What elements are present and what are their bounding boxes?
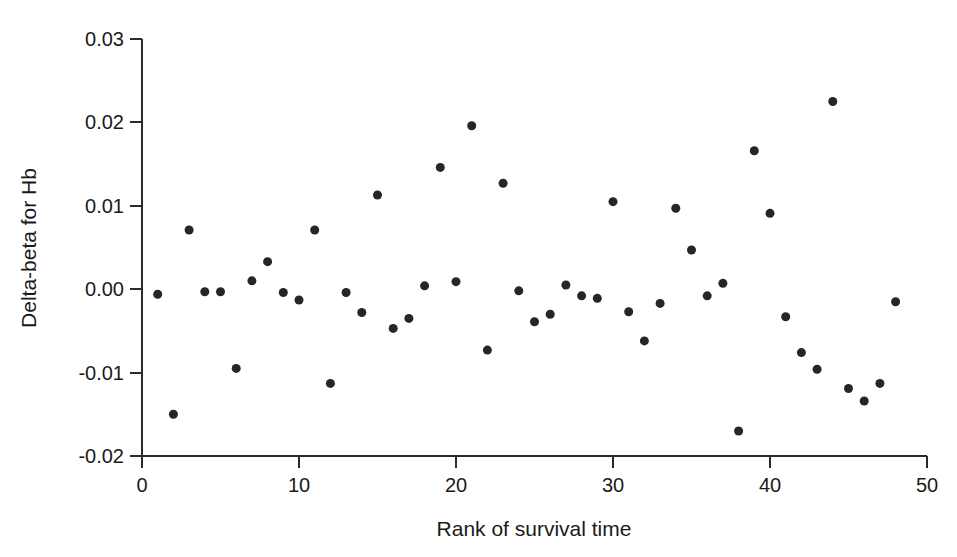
data-point (593, 294, 602, 303)
data-point (844, 384, 853, 393)
y-tick-label: 0.01 (85, 195, 124, 217)
data-point (687, 246, 696, 255)
y-tick-label: 0.00 (85, 278, 124, 300)
y-tick-label: -0.02 (78, 445, 124, 467)
data-point (860, 396, 869, 405)
data-point (718, 279, 727, 288)
data-point (875, 379, 884, 388)
y-axis-title: Delta-beta for Hb (17, 168, 40, 328)
y-tick-label: -0.01 (78, 362, 124, 384)
data-point (609, 197, 618, 206)
data-point (263, 257, 272, 266)
x-tick-label: 20 (445, 474, 467, 496)
data-point (483, 346, 492, 355)
data-point (640, 336, 649, 345)
data-point (216, 287, 225, 296)
data-point (514, 286, 523, 295)
y-axis-tick-labels: -0.02-0.010.000.010.020.03 (78, 28, 124, 467)
data-point (326, 379, 335, 388)
data-point (656, 299, 665, 308)
y-tick-label: 0.02 (85, 111, 124, 133)
data-point (404, 314, 413, 323)
data-point (813, 365, 822, 374)
data-point (734, 426, 743, 435)
data-point (295, 296, 304, 305)
y-axis-ticks (130, 39, 142, 456)
x-axis-tick-labels: 01020304050 (136, 474, 938, 496)
data-point (342, 288, 351, 297)
data-point (185, 225, 194, 234)
data-point (232, 364, 241, 373)
data-point (530, 317, 539, 326)
y-tick-label: 0.03 (85, 28, 124, 50)
data-point (561, 281, 570, 290)
data-point (671, 204, 680, 213)
data-point (828, 97, 837, 106)
x-tick-label: 0 (136, 474, 147, 496)
data-point (200, 287, 209, 296)
data-point (781, 312, 790, 321)
data-point (373, 190, 382, 199)
data-point (389, 324, 398, 333)
data-point (310, 225, 319, 234)
data-point (467, 121, 476, 130)
data-point (624, 307, 633, 316)
data-point (750, 146, 759, 155)
data-point (420, 281, 429, 290)
data-point (577, 291, 586, 300)
data-point (169, 410, 178, 419)
data-point (797, 348, 806, 357)
data-point (546, 310, 555, 319)
data-point (452, 277, 461, 286)
x-tick-label: 50 (916, 474, 938, 496)
x-tick-label: 40 (759, 474, 781, 496)
data-point (247, 276, 256, 285)
x-axis-ticks (142, 456, 927, 468)
data-point (436, 163, 445, 172)
x-tick-label: 10 (288, 474, 310, 496)
data-point (153, 290, 162, 299)
x-axis-title: Rank of survival time (437, 517, 632, 540)
data-point (499, 179, 508, 188)
scatter-plot-figure: -0.02-0.010.000.010.020.03 01020304050 R… (0, 0, 957, 557)
data-point (357, 308, 366, 317)
data-point (279, 288, 288, 297)
x-tick-label: 30 (602, 474, 624, 496)
data-point (891, 297, 900, 306)
plot-canvas: -0.02-0.010.000.010.020.03 01020304050 R… (0, 0, 957, 557)
data-point (703, 291, 712, 300)
data-points-group (153, 97, 900, 435)
data-point (766, 209, 775, 218)
